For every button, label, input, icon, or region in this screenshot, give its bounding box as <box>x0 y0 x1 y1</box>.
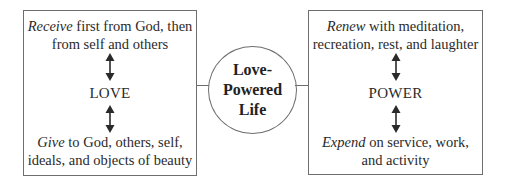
power-label: POWER <box>369 84 423 102</box>
renew-emphasis: Renew <box>327 18 366 34</box>
right-connector-line <box>295 85 309 86</box>
give-text: Give to God, others, self, ideals, and o… <box>28 133 193 169</box>
center-circle: Love- Powered Life <box>208 46 297 134</box>
receive-emphasis: Receive <box>28 18 73 34</box>
expend-emphasis: Expend <box>322 134 365 150</box>
love-label: LOVE <box>89 84 130 102</box>
give-emphasis: Give <box>37 134 64 150</box>
center-label: Love- Powered Life <box>223 60 282 120</box>
renew-text: Renew with meditation, recreation, rest,… <box>313 17 478 53</box>
power-box: Renew with meditation, recreation, rest,… <box>308 10 483 175</box>
power-core: POWER <box>369 53 423 133</box>
receive-text: Receive first from God, then from self a… <box>28 17 193 53</box>
love-core: LOVE <box>89 53 130 133</box>
double-arrow-icon <box>105 105 115 133</box>
expend-text: Expend on service, work, and activity <box>322 133 469 169</box>
double-arrow-icon <box>391 105 401 133</box>
double-arrow-icon <box>105 53 115 81</box>
love-box: Receive first from God, then from self a… <box>23 10 197 176</box>
double-arrow-icon <box>391 53 401 81</box>
